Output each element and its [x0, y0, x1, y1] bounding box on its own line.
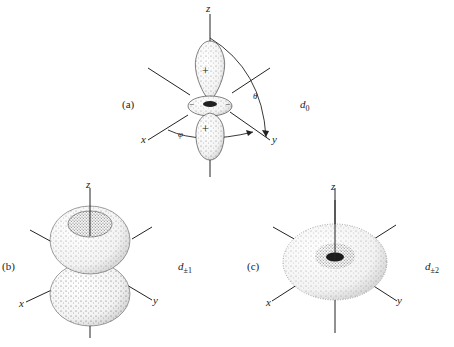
theta-arrowhead [262, 130, 269, 137]
orbital-diagram [0, 0, 454, 347]
orbital-label-a: d0 [300, 98, 310, 113]
sign-bottom-lobe: + [202, 122, 209, 137]
axis-x-label-b: x [19, 297, 24, 309]
panel-a [148, 14, 270, 177]
axis-y-label-b: y [153, 294, 158, 306]
axis-x-label-c: x [266, 296, 271, 308]
ring-hole [203, 101, 217, 107]
axis-x-label-a: x [141, 133, 146, 145]
orbital-label-b: d±1 [178, 260, 192, 275]
axis-z-label-b: z [86, 178, 90, 190]
sign-ring-left: − [189, 99, 194, 109]
phi-arrowhead [246, 130, 253, 136]
sign-top-lobe: + [202, 64, 209, 79]
sign-ring-right: − [225, 99, 230, 109]
axis-y-label-a: y [272, 133, 277, 145]
axis-z-label-c: z [331, 180, 335, 192]
axis-z-label-a: z [206, 2, 210, 14]
orbital-label-c: d±2 [425, 260, 439, 275]
panel-a-tag: (a) [122, 98, 134, 110]
panel-c-tag: (c) [247, 260, 259, 272]
panel-c [272, 188, 397, 333]
axis-y-label-c: y [397, 294, 402, 306]
theta-label: θ [253, 91, 257, 101]
panel-b [26, 188, 152, 338]
phi-label: φ [178, 129, 183, 139]
panel-b-tag: (b) [2, 260, 15, 272]
